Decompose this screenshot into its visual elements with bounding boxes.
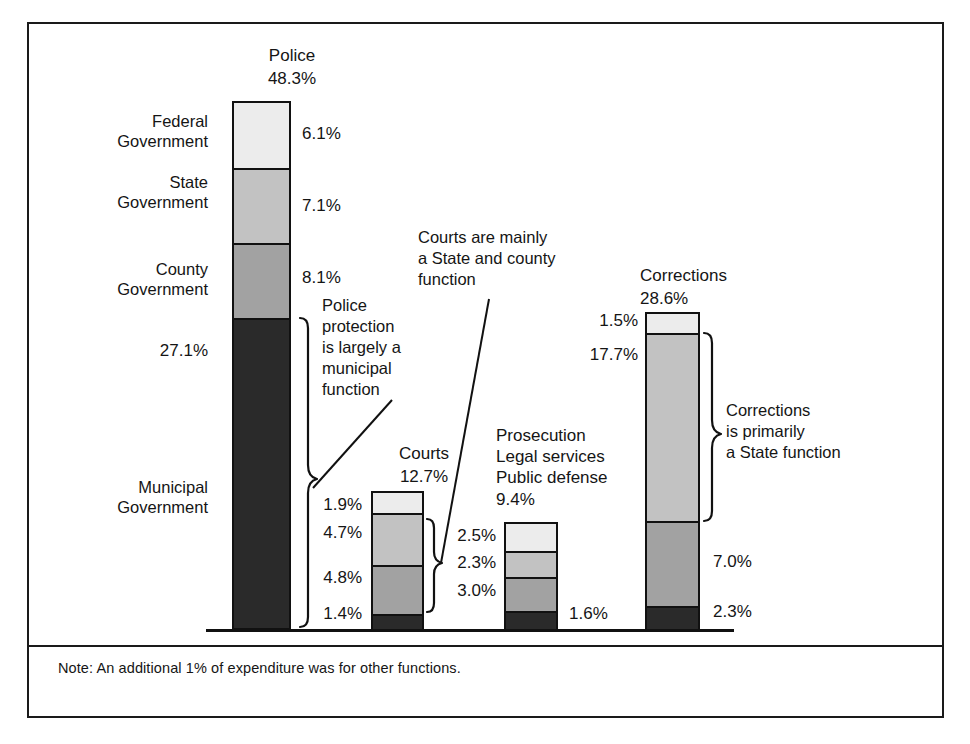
bar-prosecution: [504, 522, 558, 630]
prosecution-federal-value: 2.5%: [388, 526, 496, 546]
police-federal-value: 6.1%: [302, 124, 341, 144]
corrections-municipal-value: 2.3%: [713, 602, 752, 622]
courts-state-value: 4.7%: [250, 523, 362, 543]
bar-corrections: [645, 312, 700, 630]
corrections-bar-title: Corrections: [640, 265, 800, 286]
prosecution-segment-federal: [506, 524, 556, 553]
police-state-value: 7.1%: [302, 196, 341, 216]
police-segment-county: [234, 245, 289, 320]
prosecution-segment-state: [506, 553, 556, 579]
bar-police: [232, 101, 291, 630]
prosecution-municipal-value: 1.6%: [569, 604, 608, 624]
note-text: Note: An additional 1% of expenditure wa…: [58, 660, 461, 676]
prosecution-county-value: 3.0%: [388, 581, 496, 601]
corrections-segment-state: [647, 335, 698, 523]
courts-federal-value: 1.9%: [250, 495, 362, 515]
note-separator: [28, 645, 943, 647]
police-bar-total: 48.3%: [232, 68, 352, 89]
legend-label-state: State Government: [48, 172, 208, 212]
corrections-federal-value: 1.5%: [530, 311, 638, 331]
axis-baseline: [206, 629, 734, 632]
prosecution-segment-county: [506, 579, 556, 613]
annotation-police: Police protection is largely a municipal…: [322, 295, 452, 400]
annotation-corrections: Corrections is primarily a State functio…: [726, 400, 926, 463]
corrections-segment-federal: [647, 314, 698, 335]
corrections-county-value: 7.0%: [713, 552, 752, 572]
legend-label-county: County Government: [48, 259, 208, 299]
chart-root: Federal Government State Government Coun…: [0, 0, 970, 744]
courts-segment-federal: [373, 493, 422, 515]
courts-municipal-value: 1.4%: [250, 604, 362, 624]
prosecution-state-value: 2.3%: [388, 553, 496, 573]
police-bar-title: Police: [232, 45, 352, 66]
corrections-state-value: 17.7%: [530, 345, 638, 365]
police-segment-state: [234, 170, 289, 245]
corrections-bar-total: 28.6%: [640, 288, 800, 309]
corrections-segment-county: [647, 523, 698, 608]
legend-label-federal: Federal Government: [48, 111, 208, 151]
courts-bar-total: 12.7%: [364, 466, 484, 487]
annotation-courts: Courts are mainly a State and county fun…: [418, 227, 608, 290]
legend-label-municipal: Municipal Government: [48, 477, 208, 517]
police-county-value: 8.1%: [302, 268, 341, 288]
courts-county-value: 4.8%: [250, 568, 362, 588]
police-segment-federal: [234, 103, 289, 170]
courts-bar-title: Courts: [364, 443, 484, 464]
police-municipal-value: 27.1%: [90, 341, 208, 361]
